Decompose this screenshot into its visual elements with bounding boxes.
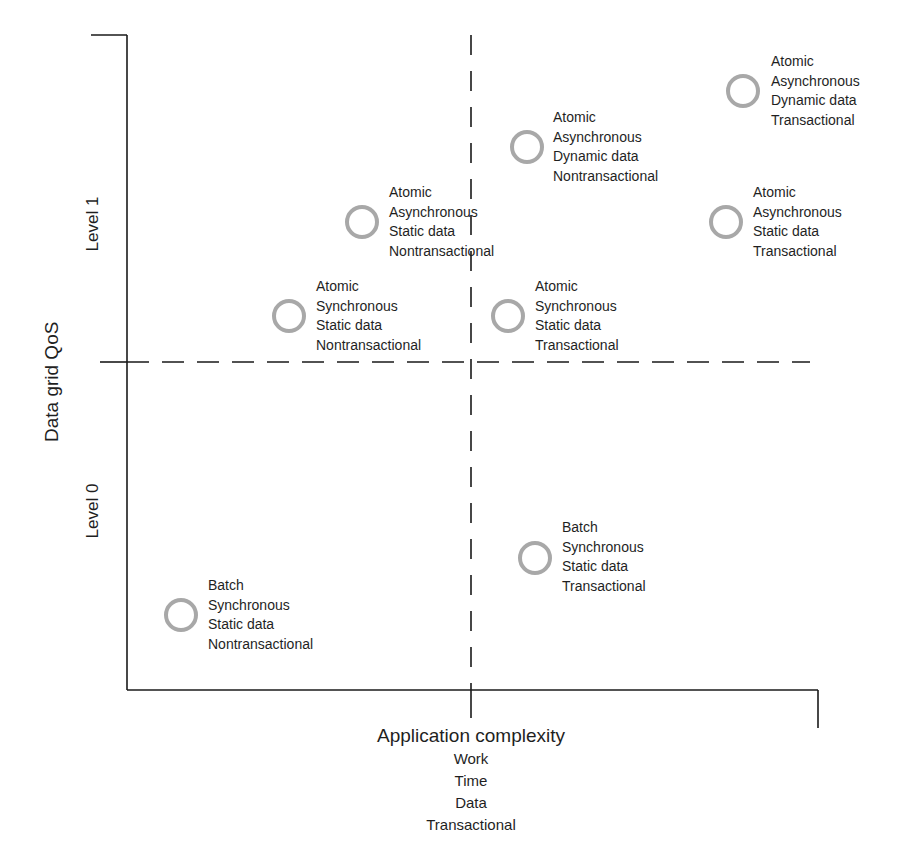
x-axis-title: Application complexity bbox=[377, 724, 565, 748]
point-label-line: Synchronous bbox=[316, 297, 421, 317]
point-label-line: Synchronous bbox=[562, 538, 646, 558]
point-label-line: Transactional bbox=[771, 111, 860, 131]
y-level-1-label: Level 1 bbox=[82, 189, 104, 259]
x-subtitle-work: Work bbox=[377, 748, 565, 770]
point-label-line: Nontransactional bbox=[553, 167, 658, 187]
point-label-line: Transactional bbox=[562, 577, 646, 597]
point-marker-circle-icon bbox=[493, 301, 523, 331]
point-label-line: Batch bbox=[562, 518, 646, 538]
point-label-line: Asynchronous bbox=[553, 128, 658, 148]
point-label: BatchSynchronousStatic dataTransactional bbox=[562, 518, 646, 596]
point-label-line: Asynchronous bbox=[753, 203, 842, 223]
point-label-line: Asynchronous bbox=[389, 203, 494, 223]
point-label-line: Transactional bbox=[535, 336, 619, 356]
point-label: BatchSynchronousStatic dataNontransactio… bbox=[208, 576, 313, 654]
point-label: AtomicAsynchronousDynamic dataNontransac… bbox=[553, 108, 658, 186]
point-marker-circle-icon bbox=[274, 301, 304, 331]
point-marker-circle-icon bbox=[512, 132, 542, 162]
point-label-line: Atomic bbox=[316, 277, 421, 297]
point-label-line: Static data bbox=[316, 316, 421, 336]
point-marker-circle-icon bbox=[166, 600, 196, 630]
point-label: AtomicAsynchronousStatic dataNontransact… bbox=[389, 183, 494, 261]
point-label-line: Batch bbox=[208, 576, 313, 596]
point-label-line: Static data bbox=[535, 316, 619, 336]
x-subtitle-time: Time bbox=[377, 770, 565, 792]
point-label-line: Atomic bbox=[553, 108, 658, 128]
point-label: AtomicSynchronousStatic dataTransactiona… bbox=[535, 277, 619, 355]
point-label-line: Synchronous bbox=[208, 596, 313, 616]
point-marker-circle-icon bbox=[520, 543, 550, 573]
point-marker-circle-icon bbox=[711, 207, 741, 237]
x-axis-title-block: Application complexity Work Time Data Tr… bbox=[377, 724, 565, 836]
point-label: AtomicAsynchronousStatic dataTransaction… bbox=[753, 183, 842, 261]
point-label-line: Transactional bbox=[753, 242, 842, 262]
point-label-line: Static data bbox=[208, 615, 313, 635]
point-label-line: Nontransactional bbox=[208, 635, 313, 655]
x-subtitle-data: Data bbox=[377, 792, 565, 814]
point-label-line: Atomic bbox=[771, 52, 860, 72]
point-marker-circle-icon bbox=[728, 76, 758, 106]
point-label: AtomicSynchronousStatic dataNontransacti… bbox=[316, 277, 421, 355]
point-marker-circle-icon bbox=[347, 207, 377, 237]
point-label-line: Synchronous bbox=[535, 297, 619, 317]
point-label-line: Asynchronous bbox=[771, 72, 860, 92]
point-label-line: Atomic bbox=[389, 183, 494, 203]
point-label-line: Static data bbox=[753, 222, 842, 242]
point-label-line: Dynamic data bbox=[553, 147, 658, 167]
point-label-line: Atomic bbox=[535, 277, 619, 297]
point-label-line: Nontransactional bbox=[316, 336, 421, 356]
point-label-line: Static data bbox=[562, 557, 646, 577]
point-label-line: Dynamic data bbox=[771, 91, 860, 111]
y-level-0-label: Level 0 bbox=[82, 476, 104, 546]
point-label: AtomicAsynchronousDynamic dataTransactio… bbox=[771, 52, 860, 130]
point-label-line: Static data bbox=[389, 222, 494, 242]
point-label-line: Atomic bbox=[753, 183, 842, 203]
y-axis-title: Data grid QoS bbox=[40, 322, 64, 442]
point-label-line: Nontransactional bbox=[389, 242, 494, 262]
x-subtitle-transactional: Transactional bbox=[377, 814, 565, 836]
